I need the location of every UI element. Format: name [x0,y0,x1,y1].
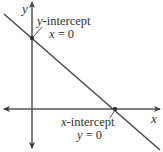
y-intercept-condition: x = 0 [48,27,74,41]
x-axis-label: x [150,111,157,126]
y-axis-label: y [20,1,28,16]
y-intercept-label: y-intercept [35,14,91,28]
x-intercept-condition: y = 0 [75,128,102,142]
intercepts-diagram: y x y-intercept x = 0 x-intercept y = 0 [0,0,163,152]
x-intercept-label: x-intercept [60,115,115,129]
y-intercept-leader [33,27,42,37]
